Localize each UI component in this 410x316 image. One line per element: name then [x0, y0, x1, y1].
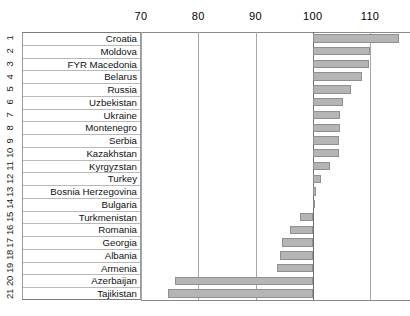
- rank-value: 16: [0, 223, 20, 236]
- category-label: Ukraine: [23, 110, 140, 123]
- rank-cell: 16: [0, 223, 20, 236]
- category-label: Belarus: [23, 71, 140, 84]
- rank-cell: 12: [0, 172, 20, 185]
- x-tick-label-70: 70: [135, 10, 148, 22]
- rank-cell: 18: [0, 249, 20, 262]
- rank-cell: 6: [0, 96, 20, 109]
- rank-cell: 7: [0, 109, 20, 122]
- category-label: FYR Macedonia: [23, 59, 140, 72]
- bar: [282, 238, 313, 246]
- rank-value: 11: [0, 160, 20, 173]
- bar: [313, 60, 369, 68]
- rank-value: 21: [0, 287, 20, 300]
- gridline-110: [370, 32, 371, 300]
- category-label: Romania: [23, 224, 140, 237]
- category-label: Montenegro: [23, 122, 140, 135]
- gridline-70: [141, 32, 142, 300]
- rank-value: 8: [0, 121, 20, 134]
- rank-value: 2: [0, 45, 20, 58]
- category-label: Armenia: [23, 263, 140, 276]
- category-label: Russia: [23, 84, 140, 97]
- rank-value: 1: [0, 32, 20, 45]
- bar: [280, 251, 313, 259]
- rank-cell: 14: [0, 198, 20, 211]
- bar: [313, 98, 343, 106]
- bar: [168, 289, 313, 297]
- category-label-column: CroatiaMoldovaFYR MacedoniaBelarusRussia…: [22, 32, 141, 300]
- category-label: Serbia: [23, 135, 140, 148]
- rank-value: 3: [0, 58, 20, 71]
- category-label: Bulgaria: [23, 199, 140, 212]
- plot-bottom-border: [141, 300, 410, 301]
- bar: [313, 72, 362, 80]
- rank-value: 5: [0, 83, 20, 96]
- rank-cell: 13: [0, 185, 20, 198]
- gridline-80: [198, 32, 199, 300]
- rank-value: 18: [0, 249, 20, 262]
- category-label: Albania: [23, 250, 140, 263]
- rank-cell: 10: [0, 147, 20, 160]
- x-tick-label-90: 90: [249, 10, 262, 22]
- x-tick-label-80: 80: [192, 10, 205, 22]
- rank-cell: 17: [0, 236, 20, 249]
- bar: [313, 149, 339, 157]
- rank-cell: 11: [0, 160, 20, 173]
- rank-cell: 15: [0, 211, 20, 224]
- category-label: Kazakhstan: [23, 148, 140, 161]
- rank-value: 14: [0, 198, 20, 211]
- rank-value: 12: [0, 172, 20, 185]
- rank-value: 4: [0, 70, 20, 83]
- rank-value: 6: [0, 96, 20, 109]
- category-label: Tajikistan: [23, 288, 140, 301]
- rank-value: 13: [0, 185, 20, 198]
- bar: [290, 226, 313, 234]
- category-label: Moldova: [23, 46, 140, 59]
- category-label: Croatia: [23, 33, 140, 46]
- rank-cell: 3: [0, 58, 20, 71]
- bar: [313, 200, 315, 208]
- x-tick-label-100: 100: [303, 10, 322, 22]
- gridline-90: [256, 32, 257, 300]
- category-label: Turkmenistan: [23, 212, 140, 225]
- plot-area: [141, 32, 410, 300]
- bar: [313, 175, 321, 183]
- rank-value: 15: [0, 211, 20, 224]
- rank-value: 20: [0, 275, 20, 288]
- bar: [313, 136, 339, 144]
- rank-cell: 8: [0, 121, 20, 134]
- rank-value: 7: [0, 109, 20, 122]
- category-label: Bosnia Herzegovina: [23, 186, 140, 199]
- bar: [277, 264, 313, 272]
- bar: [300, 213, 313, 221]
- rank-cell: 4: [0, 70, 20, 83]
- bar: [313, 85, 351, 93]
- bar: [313, 187, 316, 195]
- bar: [313, 162, 331, 170]
- bar: [175, 277, 312, 285]
- rank-cell: 1: [0, 32, 20, 45]
- x-tick-label-110: 110: [361, 10, 379, 22]
- category-label: Kyrgyzstan: [23, 161, 140, 174]
- rank-value: 9: [0, 134, 20, 147]
- rank-cell: 20: [0, 274, 20, 287]
- rank-cell: 21: [0, 287, 20, 300]
- bar-chart: 123456789101112131415161718192021 Croati…: [0, 0, 410, 316]
- rank-value: 17: [0, 236, 20, 249]
- rank-value: 19: [0, 262, 20, 275]
- category-label: Georgia: [23, 237, 140, 250]
- rank-cell: 2: [0, 45, 20, 58]
- category-label: Azerbaijan: [23, 275, 140, 288]
- bar: [313, 124, 340, 132]
- rank-column: 123456789101112131415161718192021: [0, 32, 20, 300]
- rank-cell: 9: [0, 134, 20, 147]
- rank-cell: 5: [0, 83, 20, 96]
- category-label: Turkey: [23, 173, 140, 186]
- bar: [313, 47, 370, 55]
- rank-value: 10: [0, 147, 20, 160]
- category-label: Uzbekistan: [23, 97, 140, 110]
- rank-cell: 19: [0, 262, 20, 275]
- bar: [313, 34, 399, 42]
- bar: [313, 111, 340, 119]
